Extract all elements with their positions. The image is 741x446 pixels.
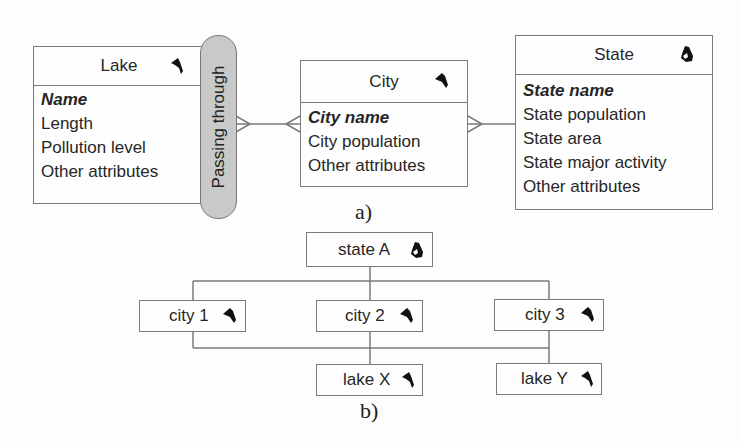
state-attribute-key: State name: [523, 79, 667, 103]
lake-attribute: Other attributes: [41, 160, 158, 184]
state-attribute: State major activity: [523, 151, 667, 175]
city-shape-icon: [400, 308, 414, 324]
node-lake-x[interactable]: lake X: [316, 364, 423, 396]
state-attribute: Other attributes: [523, 175, 667, 199]
city-attribute: Other attributes: [308, 154, 425, 178]
lake-entity-title: Lake: [101, 56, 138, 76]
figure-a-caption: a): [355, 199, 372, 225]
node-label: lake Y: [521, 369, 568, 389]
node-city-2[interactable]: city 2: [316, 300, 423, 332]
state-attribute-list: State name State population State area S…: [523, 79, 667, 199]
city-attribute: City population: [308, 130, 425, 154]
city-shape-icon: [223, 308, 237, 324]
node-city-3[interactable]: city 3: [494, 299, 604, 331]
lake-entity[interactable]: Lake Name Length Pollution level Other a…: [33, 46, 205, 204]
node-label: lake X: [343, 370, 390, 390]
relationship-label: Passing through: [209, 66, 229, 189]
state-attribute: State population: [523, 103, 667, 127]
lake-attribute-key: Name: [41, 88, 158, 112]
node-city-1[interactable]: city 1: [139, 300, 246, 332]
state-shape-icon: [680, 46, 694, 62]
city-entity-header: City: [301, 61, 467, 103]
city-attribute-key: City name: [308, 106, 425, 130]
state-shape-icon: [410, 242, 424, 258]
city-shape-icon: [581, 307, 595, 323]
city-attribute-list: City name City population Other attribut…: [308, 106, 425, 178]
node-label: city 3: [525, 305, 565, 325]
node-lake-y[interactable]: lake Y: [496, 363, 602, 395]
city-entity[interactable]: City City name City population Other att…: [300, 60, 468, 187]
lake-attribute: Length: [41, 112, 158, 136]
city-entity-title: City: [369, 72, 398, 92]
state-entity-header: State: [516, 36, 712, 75]
figure-b-caption: b): [360, 398, 378, 424]
lake-shape-icon: [580, 371, 594, 387]
node-label: city 1: [169, 306, 209, 326]
node-state-a[interactable]: state A: [306, 232, 433, 267]
lake-entity-header: Lake: [34, 47, 204, 86]
lake-attribute-list: Name Length Pollution level Other attrib…: [41, 88, 158, 184]
node-label: city 2: [345, 306, 385, 326]
state-attribute: State area: [523, 127, 667, 151]
state-entity[interactable]: State State name State population State …: [515, 35, 713, 210]
node-label: state A: [338, 240, 390, 260]
lake-shape-icon: [170, 58, 184, 74]
passing-through-relationship[interactable]: Passing through: [200, 35, 237, 219]
city-shape-icon: [435, 73, 449, 89]
lake-attribute: Pollution level: [41, 136, 158, 160]
state-entity-title: State: [594, 45, 634, 65]
lake-shape-icon: [401, 372, 415, 388]
